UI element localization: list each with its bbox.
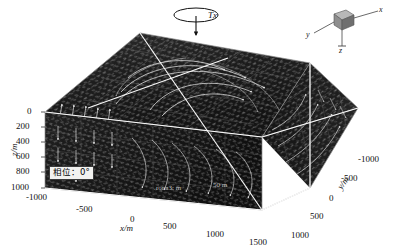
y-tick-0: 0 bbox=[329, 194, 334, 203]
x-tick-1000: 1000 bbox=[206, 230, 224, 239]
x-tick-1500: 1500 bbox=[249, 238, 267, 247]
y-tick-500: 500 bbox=[310, 212, 324, 221]
cube-y-label: y bbox=[306, 31, 310, 39]
scene-label-1: 50 m bbox=[213, 181, 227, 189]
orientation-cube-icon bbox=[314, 10, 378, 46]
scene-label-0: rona3: m bbox=[156, 184, 181, 192]
y-tick-m1000: -1000 bbox=[358, 155, 379, 164]
x-tick-m500: -500 bbox=[76, 205, 93, 214]
tx-label: Tx bbox=[208, 11, 217, 20]
plot-box bbox=[0, 0, 395, 249]
y-tick-1000: 1000 bbox=[291, 231, 309, 240]
cube-z-label: z bbox=[339, 47, 342, 55]
phase-annotation: 相位：0° bbox=[49, 166, 94, 180]
z-axis-ticks bbox=[41, 112, 45, 188]
cube-x-label: x bbox=[379, 6, 383, 14]
z-tick-200: 200 bbox=[16, 122, 30, 131]
z-tick-0: 0 bbox=[27, 107, 32, 116]
x-axis-label: x/m bbox=[120, 224, 133, 233]
z-tick-1000: 1000 bbox=[11, 183, 29, 192]
figure-canvas: Tx x y z 0 200 400 600 800 1000 z/m -100… bbox=[0, 0, 395, 249]
plot-svg bbox=[0, 0, 395, 249]
x-tick-500: 500 bbox=[163, 222, 177, 231]
z-axis-label: z/m bbox=[10, 143, 19, 156]
z-tick-800: 800 bbox=[16, 167, 30, 176]
x-tick-m1000: -1000 bbox=[26, 193, 47, 202]
